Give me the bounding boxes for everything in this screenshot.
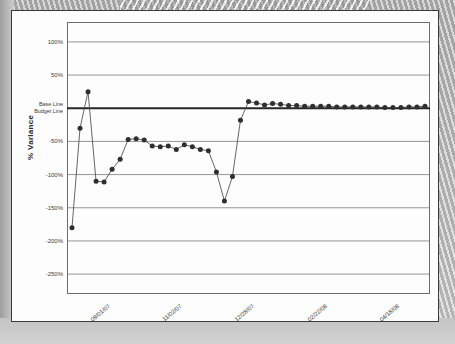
data-point-marker[interactable] (294, 103, 299, 108)
data-point-marker[interactable] (358, 104, 363, 109)
data-point-marker[interactable] (174, 147, 179, 152)
data-point-marker[interactable] (382, 105, 387, 110)
y-axis-tick-label: -250% (46, 271, 63, 277)
x-axis-tick-label: 12/28/07 (234, 303, 256, 323)
data-point-marker[interactable] (230, 174, 235, 179)
data-line (72, 92, 425, 228)
data-point-marker[interactable] (94, 179, 99, 184)
y-axis-tick-label: -150% (46, 205, 63, 211)
y-axis-tick-label: -100% (46, 172, 63, 178)
data-point-marker[interactable] (414, 104, 419, 109)
data-point-marker[interactable] (166, 144, 171, 149)
chart-plot-area: % Variance 100%50%Base LineBudget Line-5… (67, 22, 430, 294)
data-point-marker[interactable] (214, 169, 219, 174)
data-point-marker[interactable] (423, 104, 428, 109)
data-point-marker[interactable] (310, 104, 315, 109)
data-point-marker[interactable] (110, 167, 115, 172)
y-axis-tick-label: -50% (49, 138, 63, 144)
data-point-marker[interactable] (398, 105, 403, 110)
data-point-marker[interactable] (318, 104, 323, 109)
data-point-marker[interactable] (342, 104, 347, 109)
data-point-marker[interactable] (390, 105, 395, 110)
data-point-marker[interactable] (206, 148, 211, 153)
data-markers-group (70, 89, 428, 230)
data-point-marker[interactable] (118, 157, 123, 162)
y-axis-title: % Variance (26, 115, 35, 160)
line-chart-svg (67, 22, 430, 294)
data-point-marker[interactable] (78, 126, 83, 131)
data-point-marker[interactable] (262, 102, 267, 107)
data-point-marker[interactable] (222, 199, 227, 204)
data-point-marker[interactable] (406, 104, 411, 109)
data-point-marker[interactable] (70, 225, 75, 230)
data-point-marker[interactable] (366, 104, 371, 109)
x-axis-tick-label: 04/18/08 (378, 303, 400, 323)
data-point-marker[interactable] (278, 102, 283, 107)
data-point-marker[interactable] (326, 104, 331, 109)
x-axis-tick-label: 11/02/07 (162, 303, 183, 322)
data-point-marker[interactable] (238, 118, 243, 123)
data-series-group (72, 92, 425, 228)
data-point-marker[interactable] (286, 103, 291, 108)
data-point-marker[interactable] (126, 137, 131, 142)
data-point-marker[interactable] (246, 99, 251, 104)
y-axis-tick-label: 100% (48, 39, 63, 45)
data-point-marker[interactable] (334, 104, 339, 109)
chart-page: % Variance 100%50%Base LineBudget Line-5… (11, 10, 439, 322)
data-point-marker[interactable] (374, 104, 379, 109)
y-axis-tick-label: 50% (51, 72, 63, 78)
y-axis-baseline-label: Base LineBudget Line (34, 101, 63, 115)
data-point-marker[interactable] (102, 179, 107, 184)
data-point-marker[interactable] (142, 138, 147, 143)
baseline-label-line: Base Line (34, 101, 63, 108)
x-axis-tick-label: 09/01/07 (89, 303, 111, 323)
y-axis-tick-label: -200% (46, 238, 63, 244)
data-point-marker[interactable] (302, 104, 307, 109)
data-point-marker[interactable] (86, 89, 91, 94)
data-point-marker[interactable] (150, 144, 155, 149)
data-point-marker[interactable] (270, 101, 275, 106)
baseline-label-line: Budget Line (34, 108, 63, 115)
data-point-marker[interactable] (190, 144, 195, 149)
data-point-marker[interactable] (158, 144, 163, 149)
data-point-marker[interactable] (350, 104, 355, 109)
x-axis-tick-label: 02/22/08 (306, 303, 328, 323)
data-point-marker[interactable] (134, 136, 139, 141)
data-point-marker[interactable] (254, 100, 259, 105)
data-point-marker[interactable] (182, 142, 187, 147)
data-point-marker[interactable] (198, 147, 203, 152)
